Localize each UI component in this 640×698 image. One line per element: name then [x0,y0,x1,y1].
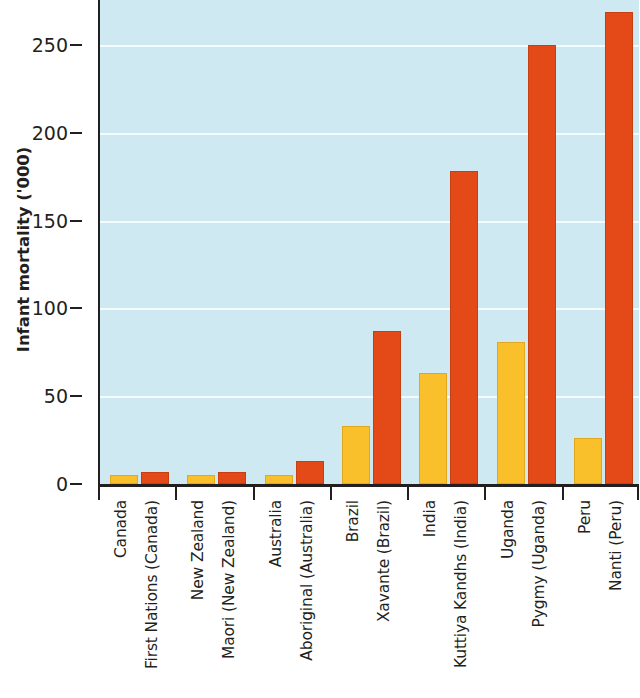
x-axis-group-separator [484,487,486,500]
x-axis-tick-label: Pygmy (Uganda) [532,500,548,627]
x-axis-tick-label: Uganda [501,500,517,559]
bar [218,472,246,484]
x-axis-tick-labels: CanadaFirst Nations (Canada)New ZealandM… [98,500,639,698]
bar [141,472,169,484]
y-axis-tick-mark [70,132,82,134]
y-axis-tick-mark [70,395,82,397]
x-axis-line [98,484,639,487]
bar [497,342,525,484]
x-axis-tick-label: Nanti (Peru) [609,500,625,591]
y-axis-tick-mark [70,483,82,485]
bar [450,171,478,484]
x-axis-group-separator [253,487,255,500]
bar [265,475,293,484]
bar [528,45,556,484]
x-axis-tick-label: Xavante (Brazil) [377,500,393,622]
bar [187,475,215,484]
y-axis-tick-label: 50 [44,387,68,406]
x-axis-tick-label: India [423,500,439,537]
bar [342,426,370,484]
bar [296,461,324,484]
x-axis-group-separator [98,487,100,500]
x-axis-tick-label: Kuttiya Kandhs (India) [454,500,470,668]
y-axis-tick-label: 150 [32,211,68,230]
x-axis-tick-label: Canada [114,500,130,558]
y-axis-tick-label: 0 [56,475,68,494]
bar-group [100,0,177,484]
x-axis-tick-label: Australia [269,500,285,567]
bars-layer [100,0,639,484]
y-axis-tick-mark [70,307,82,309]
x-axis-group-separator [407,487,409,500]
x-axis-tick-label: Aboriginal (Australia) [300,500,316,661]
plot-area [98,0,639,484]
x-axis-group-separator [330,487,332,500]
y-axis-tick-labels: 050100150200250 [0,0,82,490]
x-axis-tick-label: First Nations (Canada) [145,500,161,669]
y-axis-tick-mark [70,44,82,46]
x-axis-tick-label: Brazil [346,500,362,542]
bar [373,331,401,484]
bar [419,373,447,484]
x-axis-tick-label: Maori (New Zealand) [222,500,238,659]
bar [110,475,138,484]
x-axis-group-separator [175,487,177,500]
bar [574,438,602,484]
x-axis-group-separator [637,487,639,500]
bar [605,12,633,484]
x-axis-tick-label: Peru [578,500,594,534]
y-axis-tick-label: 100 [32,299,68,318]
bar-group [177,0,254,484]
infant-mortality-bar-chart: Infant mortality ('000) 050100150200250 … [0,0,640,698]
x-axis-tick-label: New Zealand [191,500,207,600]
x-axis-group-separator [562,487,564,500]
bar-group [255,0,332,484]
y-axis-tick-label: 250 [32,36,68,55]
y-axis-tick-label: 200 [32,123,68,142]
y-axis-tick-mark [70,220,82,222]
